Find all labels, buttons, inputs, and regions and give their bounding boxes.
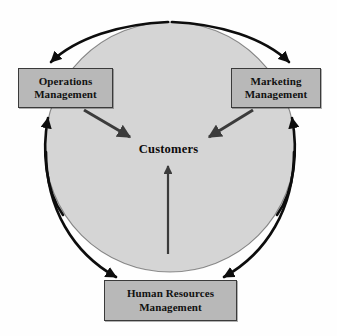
node-operations-line1: Operations: [39, 75, 93, 88]
center-label-customers: Customers: [0, 142, 337, 157]
node-human-resources-management[interactable]: Human Resources Management: [104, 280, 237, 321]
node-marketing-line1: Marketing: [250, 75, 301, 88]
node-operations-management[interactable]: Operations Management: [18, 68, 113, 108]
node-marketing-line2: Management: [245, 88, 308, 101]
node-human-resources-line2: Management: [139, 301, 202, 314]
node-operations-line2: Management: [34, 88, 97, 101]
node-marketing-management[interactable]: Marketing Management: [231, 68, 321, 108]
node-human-resources-line1: Human Resources: [127, 287, 214, 300]
diagram-canvas: Operations Management Marketing Manageme…: [0, 0, 337, 336]
